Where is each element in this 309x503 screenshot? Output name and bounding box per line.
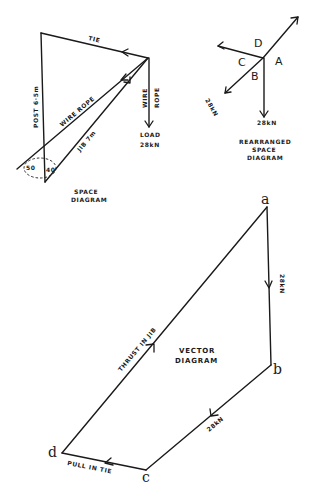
load-label: LOAD [140, 131, 161, 138]
vector-da [62, 207, 267, 453]
label-d: D [254, 37, 262, 50]
wire-rope-label: WIRE ROPE [58, 95, 96, 128]
vertical-wire-label-1: WIRE [141, 88, 148, 108]
rearranged-title-2: SPACE [252, 146, 276, 153]
point-a: a [261, 191, 269, 207]
load-value: 28kN [140, 141, 160, 148]
vector-diagram: a b c d 28kN 28kN PULL IN TIE THRUST IN … [48, 191, 286, 485]
vector-title-2: DIAGRAM [175, 357, 218, 365]
rearranged-title-1: REARRANGED [239, 138, 291, 145]
point-c: c [142, 469, 150, 485]
label-a: A [275, 55, 283, 68]
label-c: C [238, 56, 246, 69]
vertical-wire-label-2: ROPE [153, 87, 160, 108]
left-arrow-icon [218, 42, 224, 49]
space-diagram: TIE POST 6·5m WIRE ROPE JIB 7m WIRE ROPE… [17, 33, 161, 203]
vector-bc [146, 365, 271, 470]
space-diagram-title-2: DIAGRAM [71, 196, 107, 203]
da-label: THRUST IN JIB [116, 326, 158, 374]
rearranged-space-diagram: D A C B 28kN 28kN REARRANGED SPACE DIAGR… [204, 17, 298, 161]
force-d-a-line [263, 17, 298, 58]
tie-label: TIE [88, 34, 101, 44]
ab-label: 28kN [279, 274, 286, 294]
force-down-label: 28kN [257, 119, 277, 126]
point-d: d [48, 444, 57, 460]
cd-arrow-icon [105, 458, 113, 465]
diagram-canvas: TIE POST 6·5m WIRE ROPE JIB 7m WIRE ROPE… [0, 0, 309, 503]
point-b: b [273, 361, 282, 377]
post-label: POST 6·5m [32, 86, 39, 128]
force-left-label: 28kN [204, 97, 220, 118]
space-diagram-title-1: SPACE [74, 188, 98, 195]
vector-title-1: VECTOR [179, 347, 215, 355]
angle-40-label: 40 [46, 166, 56, 173]
angle-50-label: 50 [26, 164, 36, 171]
post-line [41, 33, 45, 182]
rearranged-title-3: DIAGRAM [247, 154, 283, 161]
label-b: B [251, 70, 259, 83]
